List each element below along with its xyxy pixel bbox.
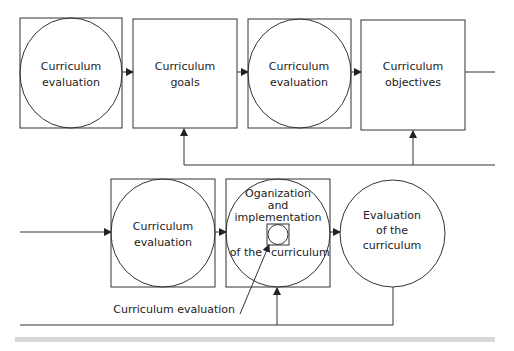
inner-evaluation-node [267, 224, 289, 245]
node-label: evaluation [42, 76, 100, 89]
annotation-label: Curriculum evaluation [113, 303, 235, 316]
page-edge-band [15, 337, 495, 342]
node-label: objectives [385, 76, 441, 89]
node-label: of the [230, 246, 262, 259]
node-label: implementation [234, 211, 321, 224]
node-label: evaluation [134, 236, 192, 249]
node-label: Curriculum [133, 220, 193, 233]
node-label: of the [376, 224, 408, 237]
node-organization-implementation: Oganization and implementation of the cu… [226, 179, 330, 287]
node-label: Evaluation [363, 209, 421, 222]
node-curriculum-evaluation-3: Curriculum evaluation [111, 179, 215, 287]
node-label: curriculum [271, 246, 330, 259]
node-label: Curriculum [383, 60, 443, 73]
diagram-canvas: Curriculum evaluation Curriculum goals C… [0, 0, 514, 351]
feedback-loop-top [184, 129, 495, 165]
node-label: curriculum [363, 239, 422, 252]
node-label: evaluation [270, 76, 328, 89]
node-evaluation-of-curriculum: Evaluation of the curriculum [340, 180, 445, 287]
node-label: Curriculum [155, 60, 215, 73]
node-curriculum-goals: Curriculum goals [133, 19, 237, 128]
node-curriculum-evaluation-1: Curriculum evaluation [20, 18, 122, 128]
node-label: Curriculum [41, 60, 101, 73]
node-label: Curriculum [269, 60, 329, 73]
node-label: goals [170, 76, 200, 89]
node-curriculum-objectives: Curriculum objectives [361, 20, 465, 130]
node-curriculum-evaluation-2: Curriculum evaluation [248, 19, 351, 128]
